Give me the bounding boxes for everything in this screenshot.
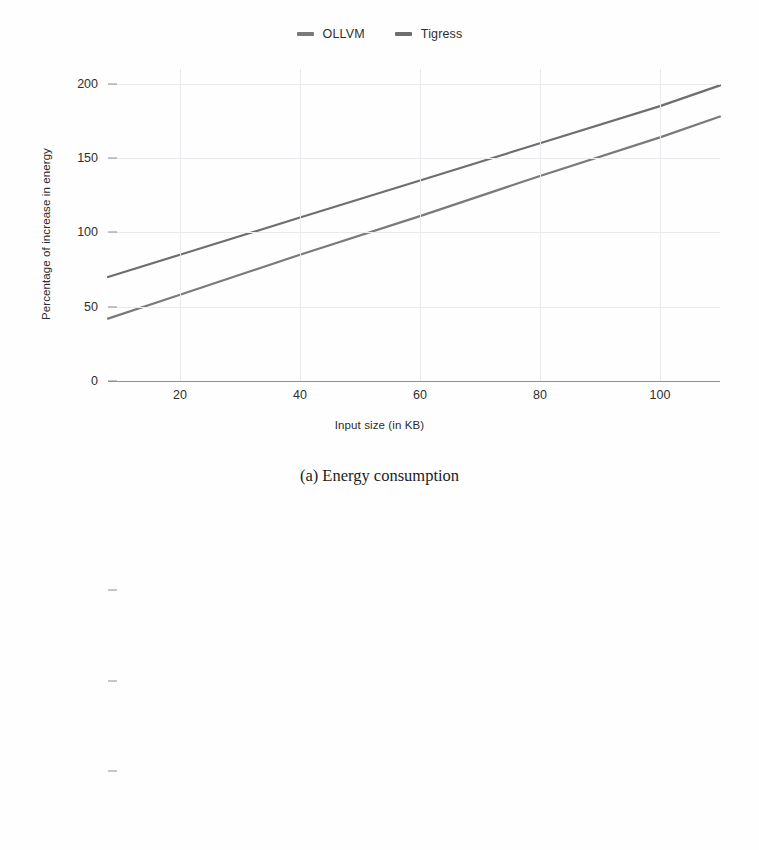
x-tick-label: 20: [173, 388, 187, 402]
legend-item-tigress-a[interactable]: Tigress: [395, 28, 463, 41]
chart-panel-execution-time: OLLVM Tigress 102030 Execution time(in s…: [0, 505, 759, 850]
y-tick-mark: [108, 771, 117, 772]
gridline-horizontal: [108, 158, 720, 159]
gridline-vertical: [420, 69, 421, 381]
series-line-ollvm: [108, 117, 720, 319]
figure-caption-a: (a) Energy consumption: [0, 466, 759, 486]
chart-legend-a: OLLVM Tigress: [0, 28, 759, 41]
legend-label: Tigress: [421, 28, 463, 41]
figure-page: OLLVM Tigress 050100150200 20406080100 P…: [0, 0, 759, 850]
legend-swatch-icon: [297, 32, 314, 36]
y-tick-label: 150: [77, 151, 98, 165]
x-tick-label: 100: [650, 388, 671, 402]
legend-swatch-icon: [395, 32, 412, 36]
gridline-vertical: [540, 69, 541, 381]
x-tick-label: 40: [293, 388, 307, 402]
plot-wrap-a: [0, 55, 759, 395]
gridline-vertical: [660, 69, 661, 381]
y-tick-mark: [108, 306, 117, 307]
y-tick-mark: [108, 232, 117, 233]
chart-panel-energy: OLLVM Tigress 050100150200 20406080100 P…: [0, 0, 759, 455]
gridline-horizontal: [108, 232, 720, 233]
gridline-vertical: [180, 69, 181, 381]
y-tick-label: 0: [91, 374, 98, 388]
gridline-horizontal: [108, 84, 720, 85]
y-tick-mark: [108, 83, 117, 84]
y-axis-title-a: Percentage of increase in energy: [40, 148, 52, 320]
series-line-tigress: [108, 85, 720, 277]
x-tick-label: 60: [413, 388, 427, 402]
y-tick-label: 200: [77, 77, 98, 91]
legend-item-ollvm-a[interactable]: OLLVM: [297, 28, 365, 41]
legend-label: OLLVM: [323, 28, 365, 41]
y-tick-mark: [108, 158, 117, 159]
y-tick-mark: [108, 590, 117, 591]
y-tick-mark: [108, 680, 117, 681]
plot-area-energy: [108, 69, 720, 381]
x-axis-title-a: Input size (in KB): [0, 419, 759, 431]
x-tick-label: 80: [533, 388, 547, 402]
y-tick-label: 50: [84, 300, 98, 314]
series-lines-energy: [108, 69, 720, 381]
gridline-horizontal: [108, 307, 720, 308]
y-tick-label: 100: [77, 225, 98, 239]
y-tick-mark: [108, 381, 117, 382]
gridline-horizontal: [108, 381, 720, 382]
y-axis-ticks-a: 050100150200: [52, 69, 98, 381]
gridline-vertical: [300, 69, 301, 381]
x-axis-ticks-a: 20406080100: [108, 388, 720, 408]
